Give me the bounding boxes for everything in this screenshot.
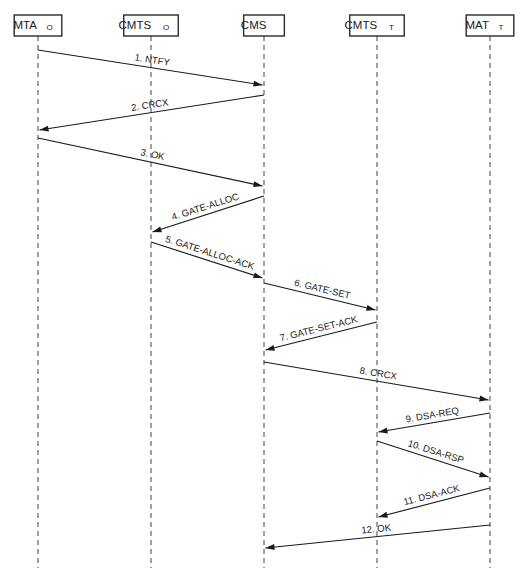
message-arrowhead [379,512,388,518]
message-6-gate-set: 6. GATE-SET [264,277,376,311]
participant-subscript-mta_o: O [46,23,52,32]
participant-mta_o: MTAO [14,15,62,36]
message-7-gate-set-ack: 7. GATE-SET-ACK [266,313,378,351]
message-label: 12. OK [361,522,392,536]
participant-label-cmts_t: CMTS [345,19,378,31]
participant-label-cmts_o: CMTS [119,19,152,31]
message-label: 10. DSA-RSP [407,437,466,465]
message-label: 3. OK [140,146,167,162]
message-arrowhead [253,81,262,87]
participant-label-cms: CMS [241,19,267,31]
sequence-diagram-canvas: 1. NTFY2. CRCX3. OK4. GATE-ALLOC5. GATE-… [0,0,529,580]
participant-cmts_o: CMTSO [119,15,179,36]
participants-layer: MTAOCMTSOCMSCMTSTMATT [14,15,514,36]
message-arrowhead [253,272,262,278]
message-4-gate-alloc: 4. GATE-ALLOC [153,190,265,232]
message-arrowhead [379,428,388,434]
sequence-diagram: 1. NTFY2. CRCX3. OK4. GATE-ALLOC5. GATE-… [0,0,529,580]
message-label: 4. GATE-ALLOC [170,190,240,222]
participant-cms: CMS [241,15,284,36]
message-arrowhead [266,345,275,351]
participant-cmts_t: CMTST [345,15,405,36]
participant-subscript-cmts_o: O [163,23,169,32]
message-arrowhead [40,126,49,132]
message-11-dsa-ack: 11. DSA-ACK [379,482,491,518]
message-arrowhead [153,226,162,232]
participant-label-mta_o: MTA [14,19,38,31]
message-label: 7. GATE-SET-ACK [279,313,359,343]
message-5-gate-alloc-ack: 5. GATE-ALLOC-ACK [151,233,263,278]
message-9-dsa-req: 9. DSA-REQ [379,405,491,434]
participant-subscript-cmts_t: T [389,23,394,32]
message-arrowhead [366,305,375,311]
message-10-dsa-rsp: 10. DSA-RSP [377,437,489,477]
participant-mat_t: MATT [466,15,514,36]
message-arrowhead [479,396,488,402]
message-arrowhead [266,544,275,550]
participant-label-mat_t: MAT [466,19,489,31]
message-label: 5. GATE-ALLOC-ACK [164,233,256,272]
participant-subscript-mat_t: T [498,23,503,32]
message-label: 9. DSA-REQ [405,405,460,425]
lifelines-layer [38,36,490,568]
message-arrowhead [479,471,488,477]
